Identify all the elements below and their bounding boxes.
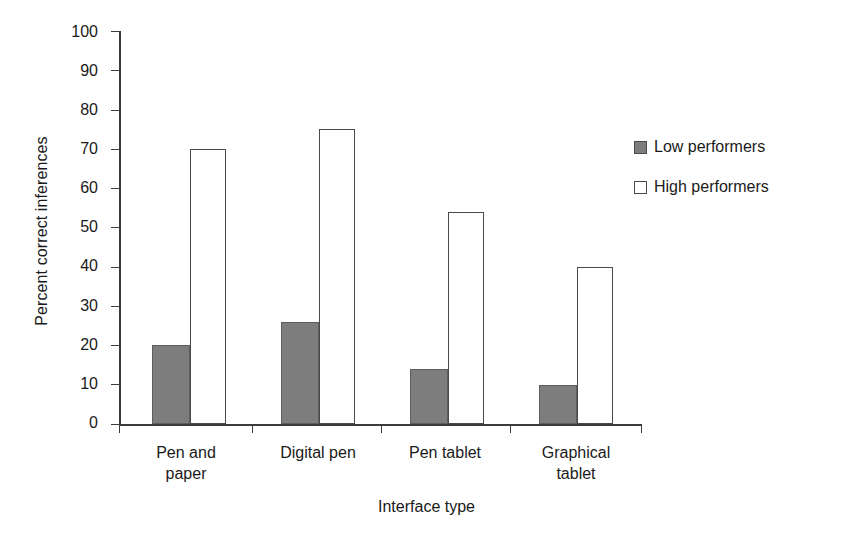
x-tick-mark-1 [252,424,253,433]
legend-label-low-performers: Low performers [654,138,765,156]
filled-gray-square-icon [634,141,647,154]
y-tick-mark-20 [111,345,119,346]
legend-item-high-performers: High performers [634,176,769,198]
bar-chart: Percent correct inferences 100 90 80 70 … [0,0,853,560]
x-category-label-pen-and-paper: Pen and paper [116,442,256,484]
y-axis-title: Percent correct inferences [33,71,51,391]
bar-high-pen-tablet [448,212,484,424]
y-tick-mark-0 [111,424,119,425]
chart-legend: Low performers High performers [634,136,769,216]
y-tick-mark-60 [111,188,119,189]
bar-low-graphical-tablet [539,385,577,424]
x-category-label-pen-tablet: Pen tablet [378,442,512,463]
x-category-label-line-2: paper [116,463,256,484]
y-tick-label-80: 80 [52,102,98,118]
y-axis-line [119,31,121,425]
x-category-label-line-1: Digital pen [248,442,388,463]
x-category-label-line-1: Pen tablet [378,442,512,463]
y-tick-mark-40 [111,267,119,268]
y-tick-mark-50 [111,227,119,228]
x-category-label-line-1: Graphical [508,442,644,463]
x-tick-mark-4 [641,424,642,433]
y-tick-label-30: 30 [52,298,98,314]
bar-high-digital-pen [319,129,355,424]
bar-high-pen-and-paper [190,149,226,424]
bar-low-pen-and-paper [152,345,190,424]
y-tick-label-60: 60 [52,180,98,196]
y-tick-mark-90 [111,70,119,71]
x-tick-mark-0 [119,424,120,433]
x-tick-mark-2 [381,424,382,433]
y-tick-label-10: 10 [52,376,98,392]
legend-label-high-performers: High performers [654,178,769,196]
y-tick-label-50: 50 [52,219,98,235]
bar-high-graphical-tablet [577,267,613,424]
y-tick-label-0: 0 [52,415,98,431]
y-tick-label-20: 20 [52,337,98,353]
y-tick-label-100: 100 [52,24,98,40]
y-tick-mark-70 [111,149,119,150]
bar-low-digital-pen [281,322,319,424]
legend-item-low-performers: Low performers [634,136,769,158]
x-category-label-graphical-tablet: Graphical tablet [508,442,644,484]
x-axis-title: Interface type [0,498,853,516]
y-tick-mark-80 [111,110,119,111]
x-category-label-line-2: tablet [508,463,644,484]
y-tick-label-70: 70 [52,141,98,157]
y-tick-label-90: 90 [52,63,98,79]
x-category-label-line-1: Pen and [116,442,256,463]
y-tick-mark-100 [111,31,119,32]
bar-low-pen-tablet [410,369,448,424]
y-tick-mark-30 [111,306,119,307]
y-tick-mark-10 [111,384,119,385]
y-tick-label-40: 40 [52,258,98,274]
outlined-white-square-icon [634,181,647,194]
x-tick-mark-3 [510,424,511,433]
x-category-label-digital-pen: Digital pen [248,442,388,463]
